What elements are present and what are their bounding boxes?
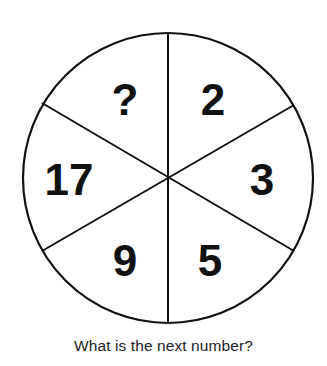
segment-bottom-left-value: 9 <box>113 236 137 285</box>
question-caption: What is the next number? <box>0 337 327 355</box>
segment-bottom-right-value: 5 <box>198 236 222 285</box>
segment-top-left-unknown: ? <box>112 75 139 124</box>
wheel-diagram: 2 3 5 9 17 ? <box>0 0 327 366</box>
segment-top-right-value: 2 <box>201 75 225 124</box>
number-wheel-puzzle: 2 3 5 9 17 ? What is the next number? <box>0 0 327 366</box>
segment-left-value: 17 <box>45 155 94 204</box>
segment-right-value: 3 <box>250 155 274 204</box>
